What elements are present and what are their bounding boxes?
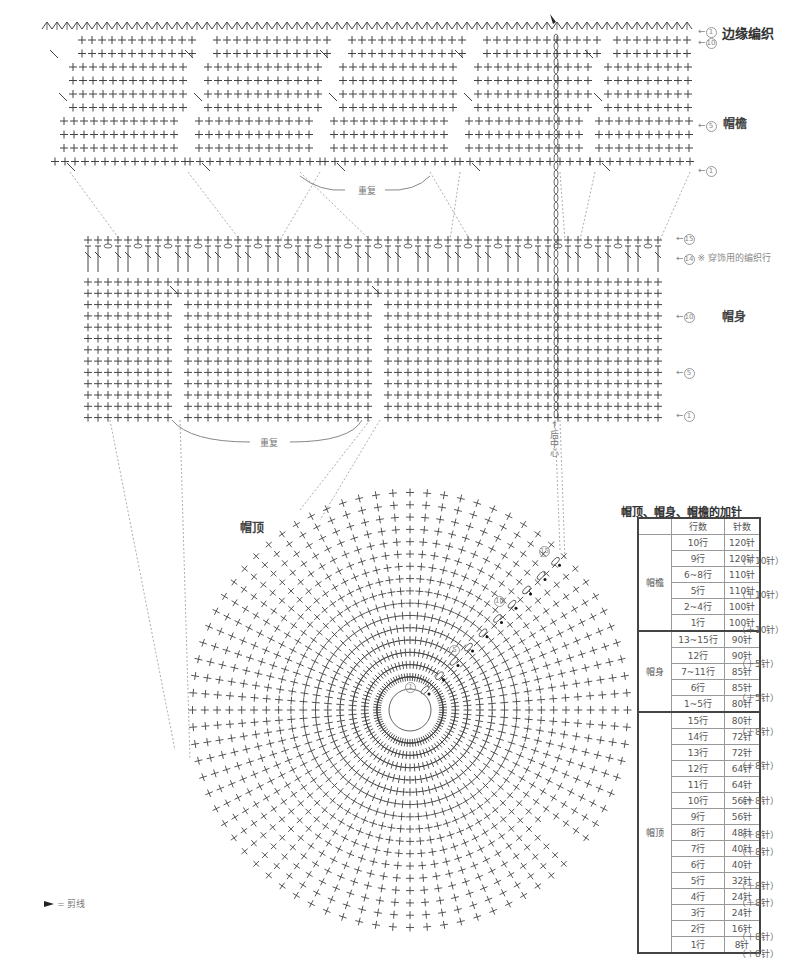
cut-yarn-arrow-icon xyxy=(44,901,54,907)
table-cell-rows: 2~4行 xyxy=(672,599,725,615)
table-cell-stitches: 110针 xyxy=(725,567,761,583)
table-cell-rows: 6~8行 xyxy=(672,567,725,583)
increase-note: （＋8针） xyxy=(737,947,779,960)
table-cell-rows: 4行 xyxy=(672,889,725,905)
edging-label: 边缘编织 xyxy=(722,23,774,42)
increase-note: （＋8针） xyxy=(737,828,779,841)
table-cell-rows: 3行 xyxy=(672,905,725,921)
table-header-row: 行数 针数 xyxy=(638,518,760,535)
increase-note: （＋8针） xyxy=(737,879,779,892)
body-repeat-label: 重复 xyxy=(260,436,278,449)
increase-note: （＋8针） xyxy=(737,759,779,772)
table-group-label: 帽顶 xyxy=(638,712,672,953)
table-cell-rows: 12行 xyxy=(672,761,725,777)
increase-note: （＋10针） xyxy=(737,623,784,636)
crown-row-marker-15: 15 xyxy=(539,546,550,557)
table-row: 帽檐10行120针 xyxy=(638,535,760,551)
brim-label: 帽檐 xyxy=(723,114,747,131)
body-row-marker-15: ←15 xyxy=(676,233,695,245)
table-cell-rows: 2行 xyxy=(672,921,725,937)
body-row-marker-1: ←1 xyxy=(676,410,695,422)
brim-row-marker-5: ←5 xyxy=(698,120,717,132)
legend-cut-label: = 剪线 xyxy=(57,897,85,910)
brim-row-marker-1: ←1 xyxy=(698,165,717,177)
brim-row-marker-10: ←10 xyxy=(698,37,717,49)
table-cell-rows: 9行 xyxy=(672,551,725,567)
table-cell-rows: 12行 xyxy=(672,648,725,664)
table-cell-stitches: 120针 xyxy=(725,535,761,551)
increase-note: （＋5针） xyxy=(737,691,779,704)
table-cell-rows: 1行 xyxy=(672,937,725,954)
back-center-label: 后中心 xyxy=(548,430,561,457)
table-cell-rows: 7~11行 xyxy=(672,664,725,680)
increase-note: （＋8针） xyxy=(737,794,779,807)
table-cell-rows: 1~5行 xyxy=(672,696,725,713)
table-header-stitches: 针数 xyxy=(725,518,761,535)
table-cell-rows: 10行 xyxy=(672,793,725,809)
increase-note: （＋8针） xyxy=(737,725,779,738)
increase-note: （＋10针） xyxy=(737,554,784,567)
back-center-marker: ↑ 后中心 xyxy=(548,420,561,457)
table-group-label: 帽檐 xyxy=(638,535,672,632)
increase-note: （＋8针） xyxy=(737,845,779,858)
increase-note: （＋10针） xyxy=(737,588,784,601)
table-cell-stitches: 40针 xyxy=(725,857,761,873)
table-cell-stitches: 72针 xyxy=(725,745,761,761)
legend: = 剪线 xyxy=(44,897,85,910)
body-row-marker-10: ←10 xyxy=(676,311,695,323)
body-row-marker-5: ←5 xyxy=(676,367,695,379)
table-group-label: 帽身 xyxy=(638,631,672,712)
table-cell-stitches: 64针 xyxy=(725,777,761,793)
table-cell-rows: 1行 xyxy=(672,615,725,632)
table-cell-rows: 7行 xyxy=(672,841,725,857)
crown-row-marker-5: 5 xyxy=(449,645,460,656)
drawstring-row-note: ※ 穿饰用的编织行 xyxy=(697,253,770,263)
crown-label: 帽顶 xyxy=(240,518,264,535)
table-cell-rows: 14行 xyxy=(672,729,725,745)
increase-note: （＋5针） xyxy=(737,657,779,670)
table-cell-rows: 6行 xyxy=(672,680,725,696)
table-header-group xyxy=(638,518,672,535)
crown-row-marker-1: 1 xyxy=(405,682,416,693)
body-label: 帽身 xyxy=(722,307,746,324)
table-cell-rows: 6行 xyxy=(672,857,725,873)
table-cell-rows: 10行 xyxy=(672,535,725,551)
table-cell-rows: 5行 xyxy=(672,873,725,889)
brim-repeat-label: 重复 xyxy=(358,184,376,197)
up-arrow-icon: ↑ xyxy=(548,420,561,430)
table-cell-stitches: 56针 xyxy=(725,809,761,825)
table-header-rows: 行数 xyxy=(672,518,725,535)
table-cell-rows: 11行 xyxy=(672,777,725,793)
body-row-marker-14: ←14 ※ 穿饰用的编织行 xyxy=(676,251,771,265)
table-cell-rows: 15行 xyxy=(672,712,725,729)
table-cell-rows: 13行 xyxy=(672,745,725,761)
table-cell-rows: 5行 xyxy=(672,583,725,599)
table-cell-rows: 9行 xyxy=(672,809,725,825)
increase-note: （＋8针） xyxy=(737,930,779,943)
table-cell-rows: 13~15行 xyxy=(672,631,725,648)
increase-note: （＋8针） xyxy=(737,896,779,909)
crown-row-marker-10: 10 xyxy=(494,596,505,607)
table-cell-rows: 8行 xyxy=(672,825,725,841)
